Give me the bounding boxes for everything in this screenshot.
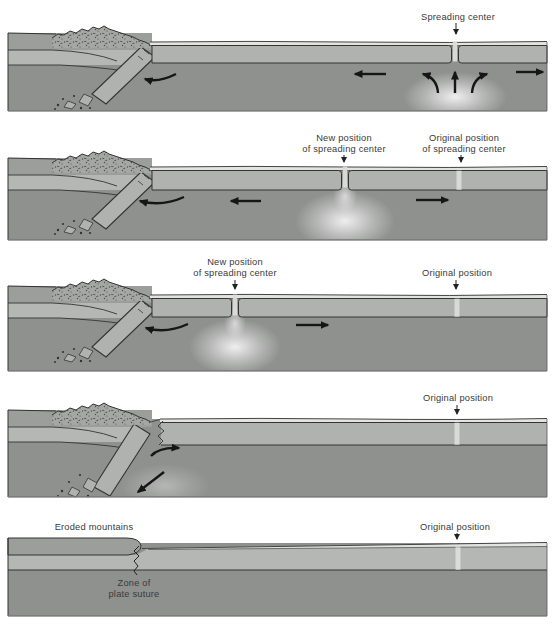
original-position-label: Original position	[420, 522, 490, 532]
zone-of-plate-suture-label-line2: plate suture	[109, 589, 160, 599]
cross-section-diagram: Spreading center New position of spreadi…	[0, 0, 555, 624]
original-position-marker	[455, 299, 460, 318]
new-position-label-line2: of spreading center	[302, 144, 385, 154]
eroded-continent-block	[8, 538, 141, 555]
oceanic-plate-right	[459, 46, 548, 64]
new-position-label-line1: New position	[207, 257, 263, 267]
panel-3: New position of spreading center Origina…	[8, 257, 547, 375]
oceanic-plate-right	[349, 171, 548, 191]
oceanic-plate-left	[152, 299, 232, 318]
eroded-mountains-label: Eroded mountains	[55, 522, 134, 532]
spreading-center-gap	[343, 167, 347, 188]
new-position-label-line1: New position	[316, 133, 372, 143]
zone-of-plate-suture-label-line1: Zone of	[118, 578, 151, 588]
panel-2: New position of spreading center Origina…	[8, 133, 547, 251]
original-position-marker	[455, 423, 460, 446]
original-position-label: Original position	[423, 393, 493, 403]
oceanic-plate-left	[152, 46, 452, 64]
oceanic-plate-right	[239, 299, 548, 318]
oceanic-plate-left	[152, 171, 342, 191]
new-position-label-line2: of spreading center	[193, 268, 276, 278]
spreading-center-gap	[453, 42, 457, 62]
original-position-marker	[457, 171, 462, 191]
plate-tectonics-figure: Spreading center New position of spreadi…	[0, 0, 555, 624]
panel-4: Original position	[8, 393, 547, 508]
original-position-marker	[456, 547, 461, 571]
original-position-label-line1: Original position	[429, 133, 499, 143]
spreading-center-label: Spreading center	[421, 12, 495, 22]
mantle-upwelling-glow	[120, 464, 210, 508]
original-position-label-line2: of spreading center	[422, 144, 505, 154]
oceanic-plate	[161, 423, 547, 446]
panel-1: Spreading center	[8, 12, 547, 122]
original-position-label: Original position	[422, 268, 492, 278]
spreading-center-gap	[233, 295, 237, 316]
panel-5: Eroded mountains Zone of plate suture Or…	[8, 522, 547, 617]
